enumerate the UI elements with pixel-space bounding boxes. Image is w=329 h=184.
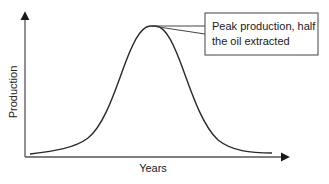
callout-pointer-bottom xyxy=(152,26,205,34)
x-axis-label: Years xyxy=(139,162,167,174)
callout-text-line1: Peak production, half xyxy=(212,20,316,32)
callout-text-line2: the oil extracted xyxy=(212,35,290,47)
peak-oil-diagram: Peak production, half the oil extracted … xyxy=(0,0,329,184)
y-axis-label: Production xyxy=(7,66,19,119)
